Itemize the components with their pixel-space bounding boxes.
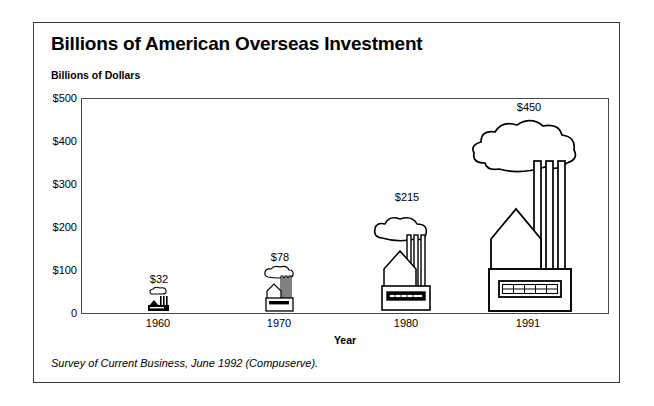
source-note: Survey of Current Business, June 1992 (C… xyxy=(51,357,318,369)
y-tick-label: $500 xyxy=(34,93,77,104)
data-point-1970[interactable]: $78 xyxy=(255,251,305,313)
y-tick-label: 0 xyxy=(34,308,77,319)
page-title: Billions of American Overseas Investment xyxy=(51,33,422,55)
x-axis-label: Year xyxy=(81,334,609,346)
data-label-1970: $78 xyxy=(271,251,289,263)
data-point-1991[interactable]: $450 xyxy=(459,101,599,313)
x-tick-label: 1991 xyxy=(516,317,540,329)
y-tick-label: $100 xyxy=(34,265,77,276)
plot-area: $32 $78 xyxy=(81,98,609,314)
x-tick-label: 1960 xyxy=(146,317,170,329)
data-label-1960: $32 xyxy=(150,273,168,285)
y-tick-label: $400 xyxy=(34,136,77,147)
x-tick-label: 1970 xyxy=(267,317,291,329)
data-label-1991: $450 xyxy=(517,101,541,113)
y-axis-tick-labels: $500 $400 $300 $200 $100 0 xyxy=(34,23,77,384)
data-point-1980[interactable]: $215 xyxy=(362,191,452,313)
x-tick-label: 1980 xyxy=(394,317,418,329)
y-tick-label: $200 xyxy=(34,222,77,233)
factory-icon xyxy=(459,101,599,313)
data-label-1980: $215 xyxy=(395,191,419,203)
factory-icon xyxy=(362,191,452,313)
y-tick-label: $300 xyxy=(34,179,77,190)
figure-card: Billions of American Overseas Investment… xyxy=(33,22,620,383)
x-axis-tick-labels: 1960 1970 1980 1991 xyxy=(81,317,609,333)
data-point-1960[interactable]: $32 xyxy=(142,273,176,313)
